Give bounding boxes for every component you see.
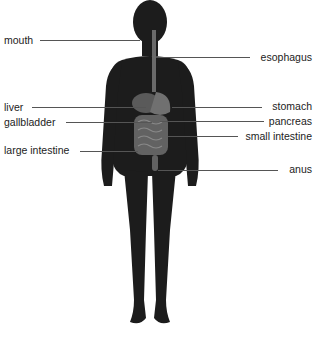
leader-pancreas (160, 121, 264, 122)
esophagus-organ (152, 30, 156, 92)
leader-small-intestine (168, 136, 238, 137)
label-esophagus: esophagus (261, 51, 312, 63)
diagram-canvas: mouth liver gallbladder large intestine … (0, 0, 316, 339)
label-gallbladder: gallbladder (4, 116, 55, 128)
leader-large-intestine (80, 151, 138, 152)
label-liver: liver (4, 101, 23, 113)
leader-stomach (172, 107, 262, 108)
leader-anus (158, 170, 278, 171)
leader-mouth (40, 40, 140, 41)
label-stomach: stomach (272, 100, 312, 112)
label-anus: anus (289, 163, 312, 175)
label-large-intestine: large intestine (4, 144, 69, 156)
leader-liver (32, 107, 146, 108)
label-mouth: mouth (4, 34, 33, 46)
leader-esophagus (156, 57, 250, 58)
leader-gallbladder (66, 122, 152, 123)
label-small-intestine: small intestine (245, 130, 312, 142)
label-pancreas: pancreas (269, 115, 312, 127)
